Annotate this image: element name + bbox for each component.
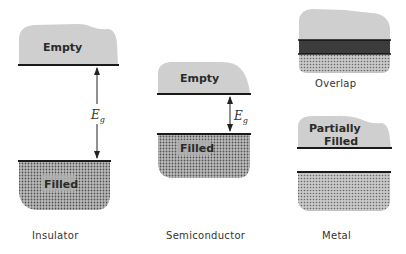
metal-caption: Metal — [322, 230, 351, 241]
semiconductor-caption: Semiconductor — [166, 230, 246, 241]
semiconductor-gap-label: Eg — [233, 109, 248, 125]
insulator-filled-label: Filled — [44, 178, 78, 191]
arrow-up-icon — [94, 67, 100, 75]
band-diagram: Empty Eg Filled Insulator Empty Eg Fille… — [0, 0, 406, 254]
arrow-up-icon — [227, 96, 233, 104]
arrow-down-icon — [94, 151, 100, 159]
semiconductor-filled-label: Filled — [180, 142, 214, 155]
metal-filled-band — [298, 172, 390, 211]
semiconductor-empty-label: Empty — [180, 72, 219, 85]
insulator-panel: Empty Eg Filled Insulator — [18, 24, 119, 241]
metal-overlap-label: Overlap — [315, 78, 356, 89]
metal-partial-label-line1: Partially — [309, 122, 361, 135]
semiconductor-panel: Empty Eg Filled Semiconductor — [157, 62, 251, 241]
insulator-empty-label: Empty — [43, 41, 82, 54]
metal-panel: Overlap Partially Filled Metal — [297, 9, 392, 241]
metal-overlap-lower-band — [299, 55, 390, 73]
arrow-down-icon — [227, 124, 233, 132]
metal-overlap-region — [299, 40, 390, 54]
insulator-caption: Insulator — [32, 230, 79, 241]
metal-partial-label-line2: Filled — [324, 135, 358, 148]
metal-overlap-upper-band — [299, 9, 390, 41]
